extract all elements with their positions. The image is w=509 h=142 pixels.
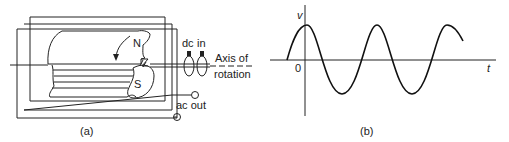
coil-loop-outer [17, 29, 177, 118]
in-label: in [197, 37, 206, 49]
ac-out-label: ac out [176, 99, 206, 111]
y-axis-label: v [297, 9, 304, 21]
pole-south-label: S [134, 78, 141, 90]
voltage-graph: v 0 t (b) [270, 5, 496, 137]
x-axis-label: t [487, 62, 491, 74]
axis-label-line2: rotation [214, 68, 251, 80]
origin-label: 0 [295, 62, 301, 74]
slip-ring-1 [184, 56, 194, 76]
rotation-arrow [116, 36, 130, 57]
generator-diagram: N S dc in Axis of rotation ac out (a) [10, 17, 252, 137]
diagram-svg: N S dc in Axis of rotation ac out (a) v … [0, 0, 509, 142]
ac-out-terminal-1 [192, 92, 199, 99]
pole-north-label: N [133, 37, 141, 49]
brush-2 [200, 51, 204, 56]
dc-label: dc [182, 37, 194, 49]
figure-canvas: N S dc in Axis of rotation ac out (a) v … [0, 0, 509, 142]
axis-label-line1: Axis of [215, 52, 249, 64]
rotor: N S [48, 31, 154, 98]
brush-1 [187, 51, 191, 56]
arrowhead-icon [113, 54, 119, 61]
caption-a: (a) [80, 125, 93, 137]
slip-ring-2 [197, 56, 207, 76]
caption-b: (b) [360, 125, 373, 137]
